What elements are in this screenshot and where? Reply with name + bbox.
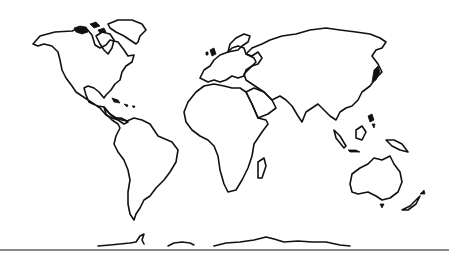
bottom-divider <box>0 249 449 251</box>
world-map <box>0 0 449 260</box>
north-america-outline <box>33 28 134 124</box>
asia-outline <box>244 28 386 122</box>
madagascar-outline <box>258 158 266 178</box>
new-guinea-outline <box>386 140 408 152</box>
caribbean-islands <box>112 98 135 108</box>
sumatra-outline <box>334 130 346 148</box>
antarctica-east-outline <box>214 237 350 246</box>
philippines-islands <box>368 114 375 128</box>
tasmania-island <box>380 204 384 208</box>
south-america-outline <box>104 107 178 220</box>
antarctica-mid-outline <box>168 242 194 246</box>
antarctica-west-outline <box>98 234 144 246</box>
british-isles <box>206 48 216 56</box>
borneo-outline <box>356 126 366 140</box>
java-island <box>348 150 360 152</box>
arabia-outline <box>246 88 276 118</box>
australia-outline <box>350 156 402 200</box>
new-zealand-north <box>420 190 425 194</box>
hudson-bay-outline <box>96 32 114 54</box>
africa-outline <box>184 84 268 192</box>
japan-islands <box>372 66 380 82</box>
new-zealand-outline <box>402 196 420 210</box>
